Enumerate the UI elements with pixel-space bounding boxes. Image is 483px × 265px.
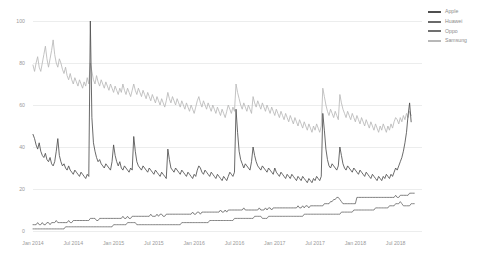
x-tick-label: Jul 2014 — [63, 240, 83, 246]
x-tick-label: Jan 2018 — [345, 240, 366, 246]
line-chart: 020406080100 Jan 2014Jul 2014Jan 2015Jul… — [0, 0, 483, 265]
series-line-huawei — [33, 193, 414, 225]
series-line-oppo — [33, 202, 414, 229]
legend-label-apple[interactable]: Apple — [445, 8, 458, 14]
legend-label-samsung[interactable]: Samsung — [445, 37, 467, 43]
x-tick-label: Jan 2017 — [264, 240, 285, 246]
x-tick-label: Jan 2014 — [22, 240, 43, 246]
gridlines — [33, 21, 422, 231]
x-tick-label: Jul 2016 — [225, 240, 245, 246]
legend-label-oppo[interactable]: Oppo — [445, 28, 458, 34]
legend-label-huawei[interactable]: Huawei — [445, 18, 462, 24]
chart-container: 020406080100 Jan 2014Jul 2014Jan 2015Jul… — [0, 0, 483, 265]
x-tick-label: Jul 2015 — [144, 240, 164, 246]
series-line-apple — [33, 21, 411, 183]
y-tick-label: 80 — [19, 60, 25, 66]
chart-legend: AppleHuaweiOppoSamsung — [428, 8, 467, 43]
x-tick-label: Jul 2018 — [386, 240, 406, 246]
y-tick-label: 60 — [19, 102, 25, 108]
x-tick-label: Jul 2017 — [305, 240, 325, 246]
x-tick-label: Jan 2016 — [183, 240, 204, 246]
y-tick-label: 20 — [19, 186, 25, 192]
x-axis-tick-labels: Jan 2014Jul 2014Jan 2015Jul 2015Jan 2016… — [22, 240, 405, 246]
y-tick-label: 100 — [16, 18, 25, 24]
y-tick-label: 40 — [19, 144, 25, 150]
data-series-group — [33, 21, 414, 229]
y-tick-label: 0 — [22, 228, 25, 234]
x-tick-label: Jan 2015 — [103, 240, 124, 246]
y-axis-tick-labels: 020406080100 — [16, 18, 25, 234]
